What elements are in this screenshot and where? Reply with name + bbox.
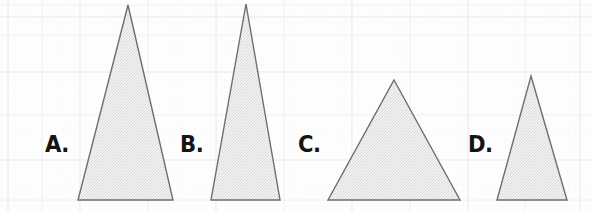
triangle-a — [78, 5, 173, 200]
shape-label-a: A. — [45, 133, 69, 156]
triangles-layer — [0, 0, 592, 212]
shape-label-b: B. — [180, 133, 203, 156]
triangles-worksheet: A. B. C. D. — [0, 0, 592, 212]
triangle-d — [497, 76, 567, 200]
triangle-c — [328, 80, 460, 200]
triangle-b — [211, 4, 280, 200]
shape-label-d: D. — [468, 133, 493, 156]
shape-label-c: C. — [298, 133, 321, 156]
